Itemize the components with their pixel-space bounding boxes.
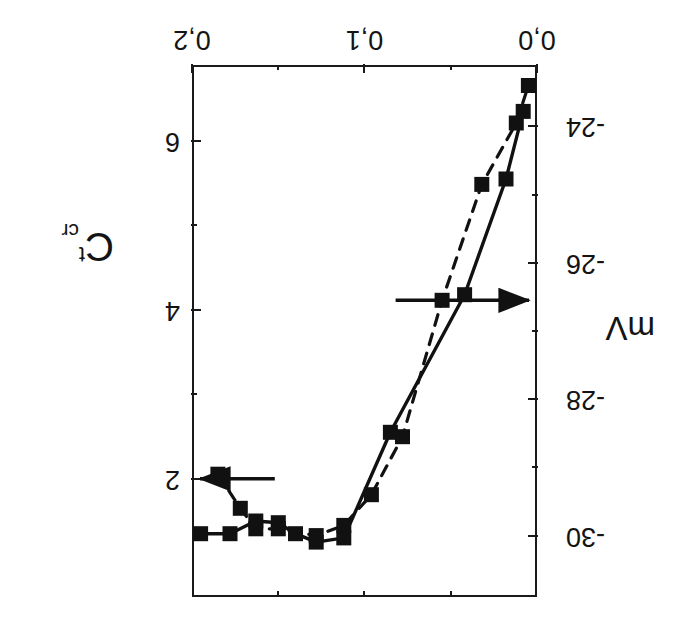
left-axis-title-superscript: t: [79, 243, 85, 268]
left-axis-title: Ctcr: [61, 221, 114, 267]
right-axis-tick-major: [528, 535, 538, 537]
left-axis-tick-label: 6: [165, 126, 180, 157]
x-tick-top: [277, 591, 279, 597]
right-axis-tick-minor: [532, 194, 538, 196]
x-tick-label: 0,2: [173, 24, 211, 55]
left-axis-tick-label: 4: [165, 294, 180, 325]
right-axis-tick-minor: [532, 466, 538, 468]
left-axis-tick-major: [191, 140, 201, 142]
left-axis-title-subscript: cr: [61, 220, 79, 243]
right-axis-tick-major: [528, 125, 538, 127]
x-tick-minor: [450, 65, 452, 70]
x-tick-major: [536, 64, 538, 73]
x-tick-top: [450, 591, 452, 597]
x-tick-label: 0,1: [346, 24, 384, 55]
left-axis-title-base: C: [85, 225, 114, 269]
left-axis-tick-major: [191, 478, 201, 480]
right-axis-tick-label: -30: [566, 520, 605, 551]
right-axis-tick-label: -26: [566, 247, 605, 278]
right-axis-tick-minor: [532, 330, 538, 332]
right-axis-title: mV: [606, 309, 656, 347]
left-axis-tick-major: [191, 309, 201, 311]
x-tick-label: 0,0: [518, 24, 556, 55]
left-axis-tick-minor: [191, 393, 197, 395]
x-tick-minor: [277, 65, 279, 70]
x-tick-major: [191, 64, 193, 73]
right-axis-tick-label: -24: [566, 111, 605, 142]
figure-root: 0,00,10,2 246 -30-28-26-24 Ctcr mV: [0, 0, 678, 632]
right-axis-tick-major: [528, 262, 538, 264]
left-axis-tick-label: 2: [165, 463, 180, 494]
right-axis-tick-label: -28: [566, 384, 605, 415]
right-axis-tick-major: [528, 398, 538, 400]
x-tick-major: [364, 64, 366, 73]
left-axis-tick-minor: [191, 224, 197, 226]
x-tick-top: [364, 591, 366, 597]
plot-frame: [192, 65, 537, 597]
